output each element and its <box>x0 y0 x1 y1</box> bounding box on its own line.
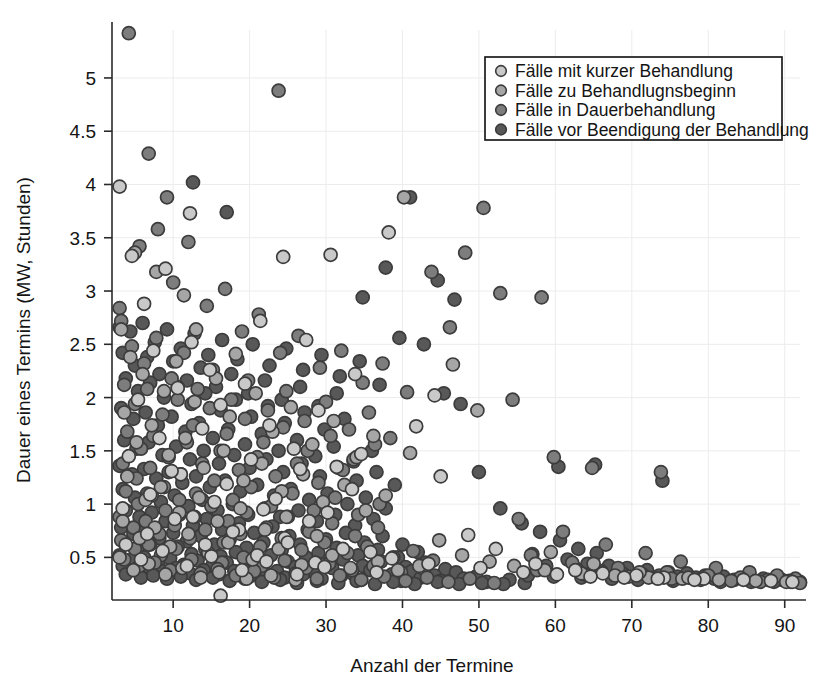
data-point <box>333 370 346 383</box>
data-point <box>220 427 233 440</box>
y-tick-label: 5 <box>85 68 96 89</box>
data-point <box>346 483 359 496</box>
legend-marker-icon <box>496 85 507 96</box>
data-point <box>517 566 530 579</box>
data-point <box>216 334 229 347</box>
data-point <box>229 347 242 360</box>
data-point <box>211 515 224 528</box>
data-point <box>550 568 563 581</box>
data-point <box>584 570 597 583</box>
data-point <box>199 523 212 536</box>
data-point <box>184 207 197 220</box>
legend-item-2[interactable]: Fälle in Dauerbehandlung <box>496 100 716 120</box>
data-point <box>180 559 193 572</box>
data-point <box>249 387 262 400</box>
data-point <box>136 317 149 330</box>
data-point <box>639 547 652 560</box>
data-point <box>749 574 762 587</box>
data-point <box>182 236 195 249</box>
data-point <box>343 423 356 436</box>
data-point <box>367 429 380 442</box>
data-point <box>651 572 664 585</box>
data-point <box>167 276 180 289</box>
data-point <box>355 573 368 586</box>
data-point <box>448 293 461 306</box>
data-point <box>258 374 271 387</box>
data-point <box>349 530 362 543</box>
data-point <box>442 575 455 588</box>
data-point <box>142 147 155 160</box>
data-point <box>353 355 366 368</box>
data-point <box>206 432 219 445</box>
data-point <box>765 574 778 587</box>
data-point <box>287 442 300 455</box>
data-point <box>187 510 200 523</box>
data-point <box>407 545 420 558</box>
data-point <box>260 555 273 568</box>
data-point <box>472 466 485 479</box>
data-point <box>257 436 270 449</box>
x-tick-label: 90 <box>774 615 795 636</box>
data-point <box>572 542 585 555</box>
data-point <box>153 432 166 445</box>
data-point <box>494 502 507 515</box>
data-point <box>193 491 206 504</box>
data-point <box>246 338 259 351</box>
data-point <box>512 513 525 526</box>
data-point <box>313 361 326 374</box>
data-point <box>150 331 163 344</box>
legend-label: Fälle in Dauerbehandlung <box>515 100 715 120</box>
data-point <box>401 386 414 399</box>
x-tick-label: 60 <box>545 615 566 636</box>
data-point <box>225 368 238 381</box>
data-point <box>330 460 343 473</box>
data-point <box>434 470 447 483</box>
data-point <box>269 470 282 483</box>
data-point <box>200 299 213 312</box>
data-point <box>372 521 385 534</box>
data-point <box>654 466 667 479</box>
y-tick-label: 2 <box>85 388 96 409</box>
data-point <box>165 465 178 478</box>
data-point <box>144 488 157 501</box>
data-point <box>370 466 383 479</box>
data-point <box>569 564 582 577</box>
data-point <box>379 261 392 274</box>
data-point <box>336 542 349 555</box>
data-point <box>324 248 337 261</box>
data-point <box>208 474 221 487</box>
data-point <box>404 447 417 460</box>
legend-item-0[interactable]: Fälle mit kurzer Behandlung <box>496 61 733 81</box>
chart-legend[interactable]: Fälle mit kurzer BehandlungFälle zu Beha… <box>485 57 809 140</box>
data-point <box>630 569 643 582</box>
data-point <box>237 474 250 487</box>
data-point <box>674 555 687 568</box>
data-point <box>118 378 131 391</box>
data-point <box>121 470 134 483</box>
data-point <box>306 438 319 451</box>
data-point <box>456 549 469 562</box>
data-point <box>315 349 328 362</box>
y-tick-label: 0.5 <box>70 547 96 568</box>
data-point <box>547 451 560 464</box>
y-tick-label: 3 <box>85 281 96 302</box>
legend-item-1[interactable]: Fälle zu Behandlugnsbeginn <box>496 81 736 101</box>
legend-label: Fälle mit kurzer Behandlung <box>515 61 733 81</box>
data-point <box>220 206 233 219</box>
data-point <box>291 568 304 581</box>
data-point <box>349 368 362 381</box>
data-point <box>173 493 186 506</box>
data-point <box>425 265 438 278</box>
chart-canvas: 1020304050607080900.511.522.533.544.55 A… <box>0 0 839 692</box>
data-point <box>370 566 383 579</box>
x-tick-label: 50 <box>468 615 489 636</box>
data-point <box>197 444 210 457</box>
data-point <box>168 513 181 526</box>
data-point <box>124 351 137 364</box>
data-point <box>272 444 285 457</box>
data-point <box>263 359 276 372</box>
y-tick-label: 2.5 <box>70 334 96 355</box>
legend-item-3[interactable]: Fälle vor Beendigung der Behandlung <box>496 120 809 140</box>
legend-label: Fälle zu Behandlugnsbeginn <box>515 81 736 101</box>
data-point <box>203 363 216 376</box>
